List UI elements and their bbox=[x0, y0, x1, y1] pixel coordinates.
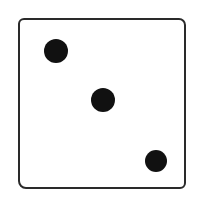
drawing-canvas: 3 bbox=[0, 0, 197, 218]
pip-top-left bbox=[44, 39, 68, 63]
pip-bottom-right bbox=[145, 150, 167, 172]
die-face-value: 3 bbox=[20, 20, 21, 21]
pip-center bbox=[91, 88, 115, 112]
